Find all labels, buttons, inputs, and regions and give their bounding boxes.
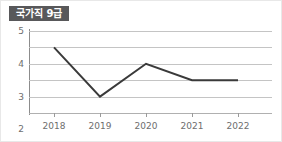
plot-region: 012345 20182019202020212022 — [29, 31, 272, 113]
x-tick-label-2020: 2020 — [135, 121, 158, 131]
y-tick-label-5: 5 — [18, 26, 24, 36]
series-polyline — [54, 47, 238, 96]
x-tick-2019 — [100, 113, 101, 117]
chart-title-badge: 국가직 9급 — [9, 6, 69, 21]
gridline-0: 0 — [29, 113, 272, 114]
x-tick-2018 — [54, 113, 55, 117]
y-tick-label-2: 2 — [18, 124, 24, 134]
x-tick-2021 — [192, 113, 193, 117]
x-tick-2020 — [146, 113, 147, 117]
x-tick-2022 — [238, 113, 239, 117]
x-tick-label-2021: 2021 — [181, 121, 204, 131]
chart-area: 012345 20182019202020212022 — [1, 23, 282, 142]
x-tick-label-2022: 2022 — [227, 121, 250, 131]
chart-screenshot: 국가직 9급 012345 20182019202020212022 — [0, 0, 282, 142]
y-tick-label-4: 4 — [18, 59, 24, 69]
y-tick-label-3: 3 — [18, 92, 24, 102]
x-tick-label-2019: 2019 — [89, 121, 112, 131]
series-line-chart — [29, 31, 272, 113]
x-tick-label-2018: 2018 — [43, 121, 66, 131]
